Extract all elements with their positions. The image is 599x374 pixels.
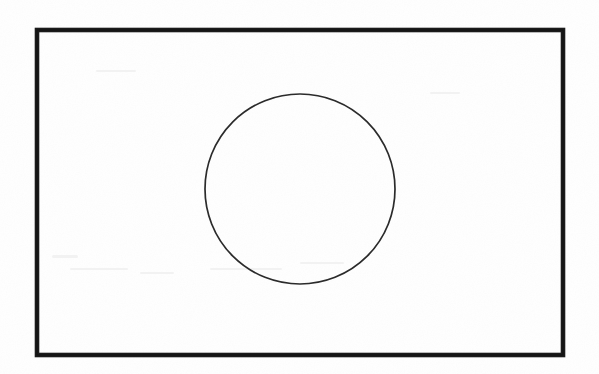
figure-svg bbox=[0, 0, 599, 374]
outer-rectangle-ink-bleed bbox=[37, 30, 563, 355]
drawing-canvas bbox=[0, 0, 599, 374]
inner-circle-shape bbox=[205, 94, 395, 284]
outer-rectangle-shape bbox=[37, 30, 563, 355]
figure-rectangle-with-inscribed-circle bbox=[0, 0, 599, 374]
